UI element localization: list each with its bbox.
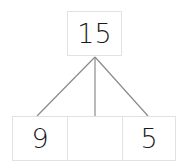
whole-value: 15 — [77, 18, 111, 49]
part-box-2 — [67, 116, 123, 161]
part-value-3: 5 — [140, 123, 157, 154]
part-box-1: 9 — [12, 116, 68, 161]
part-value-1: 9 — [31, 123, 48, 154]
whole-box: 15 — [67, 11, 122, 56]
part-box-3: 5 — [122, 116, 176, 161]
